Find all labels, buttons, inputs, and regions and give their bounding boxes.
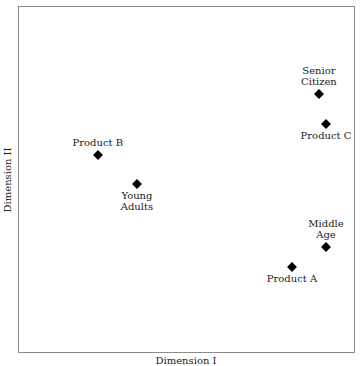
- y-axis-label: Dimension II: [2, 148, 13, 213]
- plot-area: [18, 6, 355, 353]
- point-label: Product A: [267, 273, 317, 284]
- point-label: Product C: [301, 130, 352, 141]
- point-label: Middle Age: [308, 218, 343, 240]
- point-label: Senior Citizen: [301, 65, 337, 87]
- point-label: Young Adults: [121, 190, 153, 212]
- point-label: Product B: [73, 137, 124, 148]
- x-axis-label: Dimension I: [156, 355, 217, 366]
